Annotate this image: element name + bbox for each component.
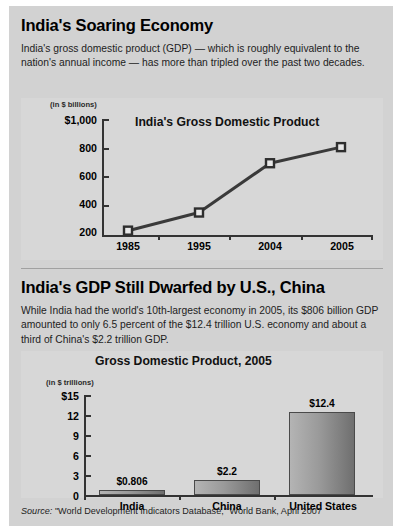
section-2-body: While India had the world's 10th-largest… — [21, 304, 383, 347]
bar-chart-ytick-mark-9 — [85, 435, 91, 437]
section-india-soaring-economy: India's Soaring Economy India's gross do… — [21, 16, 383, 71]
bar-india — [99, 490, 165, 495]
source-text: "World Development Indicators Database,"… — [55, 506, 322, 516]
bar-chart-unit-label: (in $ trillions) — [46, 378, 94, 387]
line-chart-xtick-2004: 2004 — [235, 240, 305, 252]
bar-chart-ytick-0: 0 — [21, 490, 79, 502]
bar-chart-ytick-6: 6 — [21, 450, 79, 462]
bar-chart-ytick-mark-12 — [85, 415, 91, 417]
bar-chart-ytick-12: 12 — [21, 410, 79, 422]
line-chart-xtick-2005: 2005 — [307, 240, 377, 252]
line-chart-gdp-india: (in $ billions) India's Gross Domestic P… — [21, 98, 383, 260]
bar-chart-ytick-mark-3 — [85, 475, 91, 477]
line-chart-xtick-1995: 1995 — [164, 240, 234, 252]
bar-chart-ytick-3: 3 — [21, 470, 79, 482]
bar-chart-ytick-9: 9 — [21, 430, 79, 442]
bar-chart-y-axis — [84, 395, 86, 500]
line-chart-xtick-1985: 1985 — [93, 240, 163, 252]
bar-china — [194, 480, 260, 495]
bar-chart-ytick-15: $15 — [21, 390, 79, 402]
section-divider — [21, 268, 383, 269]
section-1-body: India's gross domestic product (GDP) — w… — [21, 42, 383, 71]
bar-value-label-india: $0.806 — [97, 476, 167, 487]
bar-value-label-united-states: $12.4 — [287, 398, 357, 409]
source-line: Source: "World Development Indicators Da… — [21, 506, 322, 516]
source-label: Source: — [21, 506, 52, 516]
section-india-gdp-dwarfed: India's GDP Still Dwarfed by U.S., China… — [21, 278, 383, 347]
bar-value-label-china: $2.2 — [192, 466, 262, 477]
bar-chart-ytick-mark-15 — [85, 395, 91, 397]
line-chart-series — [21, 98, 383, 260]
bar-chart-title: Gross Domestic Product, 2005 — [95, 354, 272, 368]
bar-united-states — [289, 412, 355, 495]
bar-chart-gdp-2005: Gross Domestic Product, 2005 (in $ trill… — [21, 351, 383, 498]
section-2-title: India's GDP Still Dwarfed by U.S., China — [21, 278, 383, 297]
bar-chart-xtick-mark-1 — [179, 496, 181, 500]
content-panel: India's Soaring Economy India's gross do… — [9, 6, 393, 526]
infographic-page: India's Soaring Economy India's gross do… — [0, 0, 402, 532]
bar-chart-ytick-mark-6 — [85, 455, 91, 457]
bar-chart-x-axis — [84, 495, 373, 497]
section-1-title: India's Soaring Economy — [21, 16, 383, 35]
